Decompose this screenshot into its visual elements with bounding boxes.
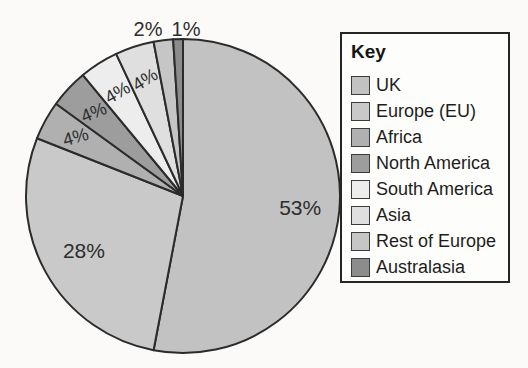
slice-label-australasia: 1% (172, 18, 201, 40)
slice-label-rest-of-europe: 2% (134, 18, 163, 40)
legend-label: Australasia (376, 257, 465, 278)
legend-swatch-rest-of-europe (351, 232, 370, 251)
legend-item-north-america: North America (351, 150, 499, 176)
legend-item-south-america: South America (351, 176, 499, 202)
legend-title: Key (351, 41, 499, 63)
legend-label: Rest of Europe (376, 231, 496, 252)
legend-swatch-uk (351, 76, 370, 95)
legend-item-australasia: Australasia (351, 254, 499, 280)
legend-item-europe-eu: Europe (EU) (351, 98, 499, 124)
legend-label: Europe (EU) (376, 101, 476, 122)
legend-swatch-australasia (351, 258, 370, 277)
slice-label-uk: 53% (279, 196, 321, 219)
pie-chart-figure: 53%28%4%4%4%4%2%1% Key UKEurope (EU)Afri… (0, 0, 528, 368)
legend-swatch-north-america (351, 154, 370, 173)
legend-label: UK (376, 75, 401, 96)
legend-item-uk: UK (351, 72, 499, 98)
legend-swatch-europe-eu (351, 102, 370, 121)
legend-swatch-south-america (351, 180, 370, 199)
slice-label-europe-eu: 28% (63, 239, 105, 262)
legend-label: Asia (376, 205, 411, 226)
legend-swatch-asia (351, 206, 370, 225)
legend-items: UKEurope (EU)AfricaNorth AmericaSouth Am… (351, 72, 499, 280)
legend-swatch-africa (351, 128, 370, 147)
legend-label: North America (376, 153, 490, 174)
legend-box: Key UKEurope (EU)AfricaNorth AmericaSout… (340, 32, 510, 283)
legend-item-rest-of-europe: Rest of Europe (351, 228, 499, 254)
legend-item-asia: Asia (351, 202, 499, 228)
legend-label: South America (376, 179, 493, 200)
legend-item-africa: Africa (351, 124, 499, 150)
legend-label: Africa (376, 127, 422, 148)
